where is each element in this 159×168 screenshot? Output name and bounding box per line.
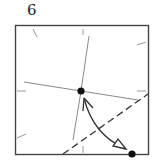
center-point (77, 87, 84, 94)
corner-point (128, 150, 135, 157)
origami-diagram (0, 0, 159, 168)
arrow-head-hollow (113, 139, 126, 149)
